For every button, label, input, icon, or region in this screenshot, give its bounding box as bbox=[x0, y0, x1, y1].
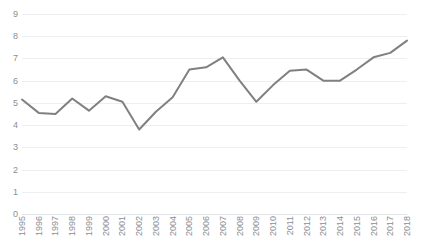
x-tick-label-2003: 2003 bbox=[152, 216, 161, 236]
x-tick-label-1995: 1995 bbox=[18, 216, 27, 236]
x-tick-label-2011: 2011 bbox=[286, 216, 295, 235]
y-tick-label-8: 8 bbox=[13, 32, 18, 41]
x-tick-label-2012: 2012 bbox=[303, 216, 312, 236]
gridline-0 bbox=[22, 214, 407, 215]
y-tick-label-5: 5 bbox=[13, 99, 18, 108]
x-tick-label-2000: 2000 bbox=[102, 216, 111, 236]
x-tick-label-1997: 1997 bbox=[51, 216, 60, 236]
x-tick-label-2016: 2016 bbox=[370, 216, 379, 236]
x-tick-label-2006: 2006 bbox=[202, 216, 211, 236]
x-tick-label-2018: 2018 bbox=[403, 216, 412, 236]
y-tick-label-3: 3 bbox=[13, 143, 18, 152]
x-tick-label-2002: 2002 bbox=[135, 216, 144, 236]
x-tick-label-2005: 2005 bbox=[185, 216, 194, 236]
x-tick-label-2007: 2007 bbox=[219, 216, 228, 236]
x-tick-label-1999: 1999 bbox=[85, 216, 94, 236]
y-tick-label-6: 6 bbox=[13, 77, 18, 86]
y-tick-label-9: 9 bbox=[13, 10, 18, 19]
x-tick-label-1998: 1998 bbox=[68, 216, 77, 236]
x-tick-label-2017: 2017 bbox=[386, 216, 395, 236]
y-tick-label-1: 1 bbox=[13, 188, 18, 197]
y-axis-tick-labels: 0123456789 bbox=[0, 0, 22, 251]
x-tick-label-1996: 1996 bbox=[35, 216, 44, 236]
y-tick-label-4: 4 bbox=[13, 121, 18, 130]
x-tick-label-2004: 2004 bbox=[169, 216, 178, 236]
x-tick-label-2008: 2008 bbox=[236, 216, 245, 236]
x-tick-label-2015: 2015 bbox=[353, 216, 362, 236]
x-tick-label-2009: 2009 bbox=[252, 216, 261, 236]
y-tick-label-2: 2 bbox=[13, 166, 18, 175]
x-tick-label-2013: 2013 bbox=[319, 216, 328, 236]
line-chart: 0123456789 19951996199719981999200020012… bbox=[0, 0, 421, 251]
x-tick-label-2001: 2001 bbox=[118, 216, 127, 236]
series-1-line bbox=[22, 41, 407, 130]
plot-area bbox=[22, 14, 407, 214]
chart-title-cropped bbox=[55, 0, 305, 3]
x-axis-tick-labels: 1995199619971998199920002001200220032004… bbox=[22, 216, 407, 251]
x-tick-label-2014: 2014 bbox=[336, 216, 345, 236]
y-tick-label-7: 7 bbox=[13, 54, 18, 63]
x-tick-label-2010: 2010 bbox=[269, 216, 278, 236]
series-line-group bbox=[22, 14, 407, 214]
